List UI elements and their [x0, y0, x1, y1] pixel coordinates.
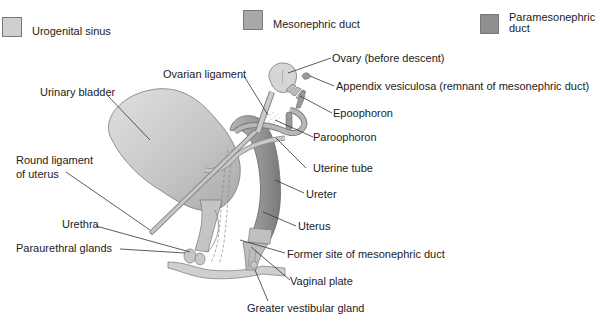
label-round-ligament-line2: of uterus: [16, 168, 59, 181]
label-ovary: Ovary (before descent): [332, 52, 445, 65]
label-paraurethral-glands: Paraurethral glands: [16, 242, 112, 255]
label-urinary-bladder: Urinary bladder: [40, 86, 115, 99]
label-appendix-vesiculosa: Appendix vesiculosa (remnant of mesoneph…: [336, 80, 589, 93]
paraurethral-gland: [195, 253, 205, 265]
label-uterine-tube: Uterine tube: [313, 162, 373, 175]
former-site-region: [248, 228, 272, 244]
label-ureter: Ureter: [306, 188, 337, 201]
label-greater-vestibular-gland: Greater vestibular gland: [247, 302, 364, 315]
label-paroophoron: Paroophoron: [313, 131, 377, 144]
label-former-site: Former site of mesonephric duct: [287, 248, 445, 261]
urinary-bladder-shape: [108, 89, 240, 211]
label-epoophoron: Epoophoron: [333, 107, 393, 120]
appendix-vesiculosa-shape: [302, 73, 311, 79]
label-round-ligament: Round ligament: [16, 154, 93, 167]
urogenital-sinus-floor: [168, 262, 285, 279]
label-uterus: Uterus: [298, 220, 330, 233]
label-vaginal-plate: Vaginal plate: [290, 275, 353, 288]
greater-vestibular-gland-shape: [251, 262, 258, 269]
label-ovarian-ligament: Ovarian ligament: [163, 68, 246, 81]
label-urethra: Urethra: [62, 218, 99, 231]
